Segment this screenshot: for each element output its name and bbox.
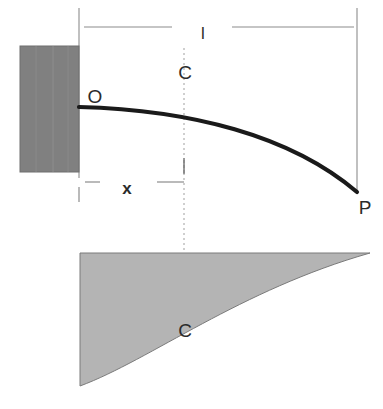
centroid-bottom-label: C [178,320,192,341]
deflected-beam-group [79,107,357,192]
length-label: l [201,24,205,43]
bending-moment-area-group [80,253,370,386]
distance-label: x [122,179,132,198]
deflected-beam-curve [79,107,357,192]
fixed-wall-support-group [20,46,79,172]
bending-moment-area [80,253,370,386]
centroid-top-label: C [178,62,192,83]
fixed-wall-support [20,46,79,172]
cantilever-deflection-diagram: l x O P C C [0,0,383,409]
diagram-canvas: l x O P C C [0,0,383,409]
end-point-label: P [359,197,372,218]
origin-point-label: O [88,86,103,107]
